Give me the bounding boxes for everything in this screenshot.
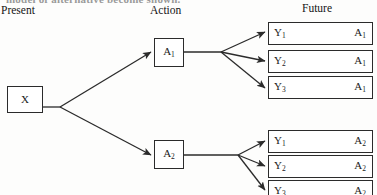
outcome-state-label: Y2 [274,160,286,173]
outcome-box-bottom-2: Y2 A2 [268,155,373,178]
column-header-action: Action [150,4,181,16]
outcome-action-label: A2 [354,160,366,173]
outcome-action-label: A1 [354,27,366,40]
column-header-present: Present [1,4,35,16]
outcome-action-label: A1 [354,81,366,94]
outcome-box-top-1: Y1 A1 [268,22,373,45]
node-action-a1: A1 [154,38,184,67]
outcome-state-label: Y1 [274,27,286,40]
column-header-future: Future [302,2,332,14]
outcome-state-label: Y3 [274,81,286,94]
outcome-state-label: Y2 [274,55,286,68]
figure-caption-truncated: model of alternative become shown. [6,0,346,3]
outcome-action-label: A2 [354,185,366,195]
outcome-box-bottom-1: Y1 A2 [268,130,373,153]
outcome-box-top-3: Y3 A1 [268,76,373,99]
outcome-action-label: A1 [354,55,366,68]
node-action-a2-label: A2 [163,148,175,161]
outcome-box-bottom-3: Y3 A2 [268,180,373,195]
outcome-action-label: A2 [354,135,366,148]
outcome-box-top-2: Y2 A1 [268,50,373,73]
node-action-a1-label: A1 [163,46,175,59]
node-present-x: X [7,86,43,113]
node-action-a2: A2 [154,140,184,169]
decision-tree-figure: model of alternative become shown. Prese… [0,0,377,195]
outcome-state-label: Y3 [274,185,286,195]
node-present-label: X [21,94,29,105]
outcome-state-label: Y1 [274,135,286,148]
